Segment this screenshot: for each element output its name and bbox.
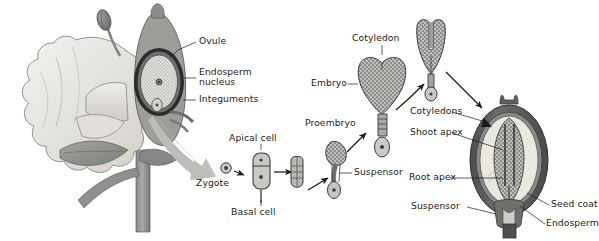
endosperm-leader bbox=[520, 206, 545, 224]
label-endosperm-nucleus-line2: nucleus bbox=[199, 77, 235, 88]
proembryo-basal-nucleus bbox=[332, 188, 336, 192]
heart-stage-embryo bbox=[348, 45, 406, 157]
seed-stalk bbox=[503, 224, 516, 238]
label-root-apex: Root apex bbox=[409, 172, 456, 183]
proembryo-head bbox=[326, 141, 347, 165]
flower-with-ovary-illustration bbox=[22, 4, 216, 232]
zygote-nucleus bbox=[224, 166, 228, 170]
label-embryo: Embryo bbox=[311, 78, 347, 89]
endosperm-nucleus-core bbox=[158, 81, 160, 83]
label-suspensor-seed: Suspensor bbox=[411, 201, 460, 212]
basal-cell-nucleus bbox=[259, 175, 263, 179]
stem-branch-left bbox=[78, 168, 139, 208]
torpedo-suspensor bbox=[428, 74, 434, 88]
label-endosperm: Endosperm bbox=[546, 218, 599, 229]
label-basal-cell: Basal cell bbox=[231, 207, 276, 218]
label-cotyledon: Cotyledon bbox=[352, 33, 399, 44]
arrow-zygote-to-two-cell bbox=[234, 171, 244, 175]
multicell-stage bbox=[291, 156, 303, 187]
label-cotyledons: Cotyledons bbox=[410, 106, 462, 117]
arrow-torpedo-to-seed bbox=[446, 72, 482, 108]
label-seed-coat: Seed coat bbox=[551, 199, 598, 210]
proembryo-stage bbox=[326, 141, 352, 198]
label-shoot-apex: Shoot apex bbox=[410, 127, 463, 138]
arrow-multicell-to-proembryo bbox=[308, 178, 328, 190]
zygote-stage bbox=[221, 163, 231, 173]
seed-beak bbox=[500, 95, 518, 104]
heart-embryo-basal-nucleus bbox=[380, 145, 384, 149]
arrow-proembryo-to-heart bbox=[347, 133, 366, 152]
apical-cell-nucleus bbox=[259, 158, 262, 161]
style-tube bbox=[151, 4, 164, 18]
torpedo-stage-embryo bbox=[417, 20, 446, 101]
torpedo-basal-nucleus bbox=[429, 92, 432, 95]
proembryo-suspensor bbox=[334, 164, 336, 182]
anther-icon bbox=[95, 8, 113, 32]
mature-seed bbox=[450, 95, 549, 238]
label-apical-cell: Apical cell bbox=[229, 133, 277, 144]
label-zygote: Zygote bbox=[196, 178, 229, 189]
label-suspensor-mid: Suspensor bbox=[354, 167, 403, 178]
egg-nucleus bbox=[156, 104, 159, 107]
heart-embryo-suspensor bbox=[378, 114, 387, 136]
label-proembryo: Proembryo bbox=[305, 118, 356, 129]
label-ovule: Ovule bbox=[199, 36, 226, 47]
two-cell-stage bbox=[253, 144, 270, 206]
label-integuments: Integuments bbox=[199, 94, 258, 105]
two-cell-body bbox=[253, 153, 270, 189]
